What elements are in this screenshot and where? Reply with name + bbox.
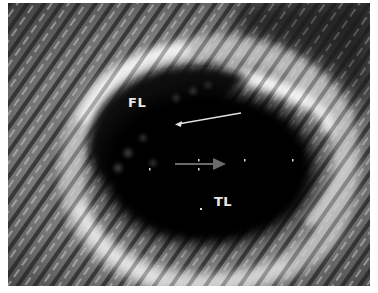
true-lumen-label: TL — [214, 194, 232, 209]
ultrasound-image: FL TL — [8, 3, 370, 286]
ivus-cross-section — [8, 3, 370, 286]
false-lumen-label: FL — [128, 95, 146, 110]
